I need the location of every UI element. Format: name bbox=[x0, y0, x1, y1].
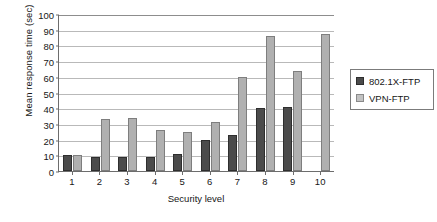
x-tick-mark bbox=[155, 172, 156, 175]
bar bbox=[266, 36, 275, 171]
bar bbox=[63, 155, 72, 171]
y-tick-label: 10 bbox=[43, 151, 54, 162]
bar-group bbox=[307, 15, 335, 171]
x-tick-label: 5 bbox=[168, 172, 196, 188]
y-tick-label: 30 bbox=[43, 119, 54, 130]
bar bbox=[73, 155, 82, 171]
bar bbox=[91, 157, 100, 171]
x-tick-mark bbox=[72, 172, 73, 175]
legend-label: 802.1X-FTP bbox=[369, 76, 420, 87]
x-tick-label: 1 bbox=[58, 172, 86, 188]
bar bbox=[183, 132, 192, 171]
y-tick-label: 50 bbox=[43, 88, 54, 99]
x-axis-ticks: 12345678910 bbox=[58, 172, 334, 188]
bar-group bbox=[59, 15, 87, 171]
bar-group bbox=[169, 15, 197, 171]
bar bbox=[128, 118, 137, 171]
y-tick-label: 90 bbox=[43, 25, 54, 36]
y-tick-label: 40 bbox=[43, 104, 54, 115]
bar-chart-figure: Mean response time (sec) 010203040506070… bbox=[0, 0, 437, 222]
x-tick-label: 2 bbox=[86, 172, 114, 188]
legend-swatch-icon bbox=[356, 94, 364, 102]
bar bbox=[283, 107, 292, 171]
plot-area: 0102030405060708090100 bbox=[58, 15, 334, 172]
bar-group bbox=[114, 15, 142, 171]
bar bbox=[101, 119, 110, 171]
x-tick-label: 4 bbox=[141, 172, 169, 188]
x-tick-label: 6 bbox=[196, 172, 224, 188]
bar bbox=[118, 157, 127, 171]
y-tick-label: 0 bbox=[49, 167, 54, 178]
x-tick-mark bbox=[320, 172, 321, 175]
x-tick-label: 9 bbox=[279, 172, 307, 188]
x-axis-label: Security level bbox=[58, 193, 334, 204]
bar bbox=[211, 122, 220, 171]
legend-item: VPN-FTP bbox=[356, 91, 429, 105]
bar-group bbox=[197, 15, 225, 171]
y-axis-label: Mean response time (sec) bbox=[23, 0, 34, 141]
x-tick-mark bbox=[99, 172, 100, 175]
y-tick-label: 80 bbox=[43, 41, 54, 52]
x-tick-mark bbox=[182, 172, 183, 175]
bar-group bbox=[279, 15, 307, 171]
x-tick-label: 10 bbox=[306, 172, 334, 188]
bar bbox=[321, 34, 330, 171]
bar bbox=[173, 154, 182, 171]
bar-groups bbox=[59, 15, 334, 171]
y-tick-label: 70 bbox=[43, 57, 54, 68]
y-tick-label: 100 bbox=[38, 10, 54, 21]
chart-legend: 802.1X-FTPVPN-FTP bbox=[350, 69, 434, 110]
x-tick-mark bbox=[127, 172, 128, 175]
bar bbox=[238, 77, 247, 171]
y-tick-label: 20 bbox=[43, 135, 54, 146]
y-tick-label: 60 bbox=[43, 72, 54, 83]
x-tick-mark bbox=[293, 172, 294, 175]
bar bbox=[256, 108, 265, 171]
bar bbox=[156, 130, 165, 171]
x-tick-mark bbox=[265, 172, 266, 175]
bar-group bbox=[142, 15, 170, 171]
x-tick-mark bbox=[210, 172, 211, 175]
bar bbox=[146, 157, 155, 171]
bar bbox=[293, 71, 302, 171]
x-tick-label: 8 bbox=[251, 172, 279, 188]
x-tick-mark bbox=[237, 172, 238, 175]
legend-swatch-icon bbox=[356, 77, 364, 85]
legend-item: 802.1X-FTP bbox=[356, 74, 429, 88]
bar-group bbox=[87, 15, 115, 171]
bar bbox=[228, 135, 237, 171]
x-tick-label: 7 bbox=[224, 172, 252, 188]
bar-group bbox=[224, 15, 252, 171]
x-tick-label: 3 bbox=[113, 172, 141, 188]
legend-label: VPN-FTP bbox=[369, 93, 410, 104]
bar-group bbox=[252, 15, 280, 171]
bar bbox=[201, 140, 210, 171]
